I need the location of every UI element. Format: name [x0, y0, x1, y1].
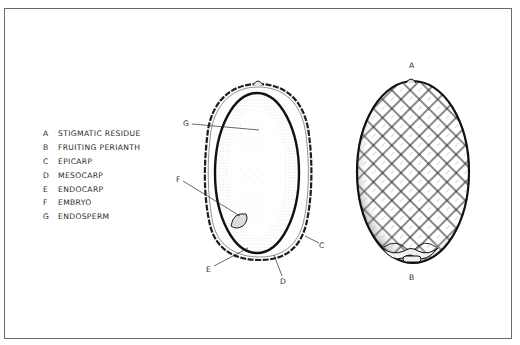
label-b: B	[409, 273, 414, 282]
whole-fruit	[350, 75, 480, 270]
label-d: D	[280, 277, 286, 286]
stigmatic-residue	[406, 79, 416, 83]
label-c: C	[319, 241, 324, 250]
label-a: A	[409, 61, 414, 70]
label-e: E	[206, 265, 211, 274]
label-f: F	[176, 175, 180, 184]
cross-section-fruit	[183, 81, 319, 276]
fruit-illustration	[0, 0, 520, 345]
label-g: G	[183, 119, 189, 128]
stigmatic-nub	[253, 81, 263, 85]
